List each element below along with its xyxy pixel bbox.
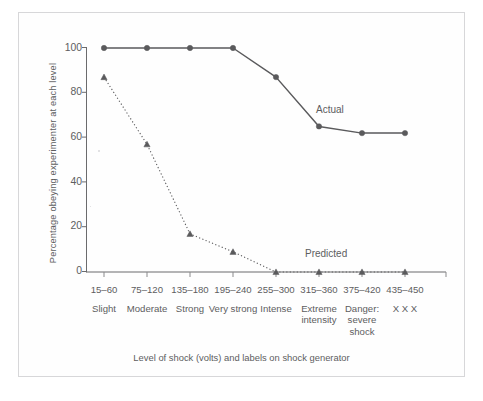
scan-speckle — [98, 150, 100, 152]
series-label-predicted: Predicted — [305, 248, 347, 259]
y-axis-title: Percentage obeying experimenter at each … — [48, 48, 58, 278]
y-tick-label-40: 40 — [56, 176, 82, 187]
figure-frame — [18, 12, 465, 377]
y-tick-label-0: 0 — [56, 265, 82, 276]
scan-speckle — [90, 206, 91, 207]
figure-frame-inner — [19, 13, 464, 376]
y-tick-label-100: 100 — [56, 42, 82, 53]
y-tick-label-60: 60 — [56, 131, 82, 142]
y-tick-label-20: 20 — [56, 220, 82, 231]
x-axis-title: Level of shock (volts) and labels on sho… — [0, 352, 483, 363]
y-tick-label-80: 80 — [56, 86, 82, 97]
x-category-descr: X X X — [377, 303, 433, 315]
figure-root: Percentage obeying experimenter at each … — [0, 0, 483, 401]
x-category-volts: 435–450 — [377, 284, 433, 296]
x-category-8: 435–450 X X X — [377, 284, 433, 314]
series-label-actual: Actual — [316, 104, 344, 115]
